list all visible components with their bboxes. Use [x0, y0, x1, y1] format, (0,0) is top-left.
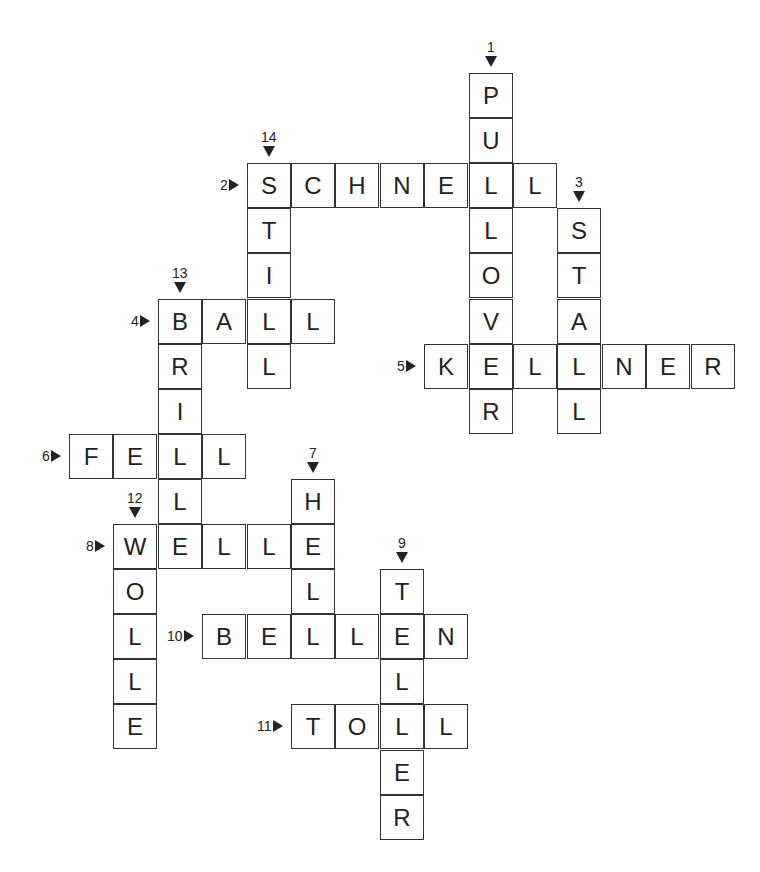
crossword-cell: E: [646, 344, 690, 389]
arrow-right-icon: [95, 540, 105, 552]
arrow-right-icon: [140, 315, 150, 327]
arrow-down-icon: [174, 282, 186, 293]
crossword-cell: L: [291, 569, 335, 614]
crossword-cell: L: [513, 163, 557, 208]
crossword-cell: E: [424, 163, 468, 208]
crossword-cell: N: [602, 344, 646, 389]
crossword-cell: V: [469, 299, 513, 344]
crossword-cell: R: [158, 344, 202, 389]
crossword-cell: C: [291, 163, 335, 208]
clue-number: 10: [167, 629, 183, 643]
arrow-down-icon: [129, 507, 141, 518]
crossword-cell: L: [380, 659, 424, 704]
clue-number: 14: [261, 130, 277, 144]
crossword-cell: R: [691, 344, 735, 389]
clue-number: 6: [42, 449, 50, 463]
crossword-cell: H: [335, 163, 379, 208]
crossword-cell: R: [469, 389, 513, 434]
crossword-cell: L: [247, 524, 291, 569]
crossword-cell: T: [380, 569, 424, 614]
crossword-cell: L: [113, 614, 157, 659]
crossword-cell: O: [469, 253, 513, 298]
clue-number: 12: [127, 491, 143, 505]
crossword-cell: B: [158, 299, 202, 344]
crossword-cell: L: [158, 434, 202, 479]
crossword-cell: L: [291, 614, 335, 659]
crossword-cell: L: [380, 704, 424, 749]
arrow-down-icon: [573, 191, 585, 202]
crossword-cell: E: [291, 524, 335, 569]
crossword-cell: H: [291, 479, 335, 524]
crossword-cell: K: [424, 344, 468, 389]
crossword-cell: U: [469, 118, 513, 163]
clue-marker-12: 12: [127, 491, 143, 518]
arrow-right-icon: [406, 360, 416, 372]
clue-number: 11: [257, 719, 272, 733]
clue-number: 1: [487, 40, 495, 54]
clue-marker-4: 4: [131, 314, 150, 328]
crossword-cell: F: [69, 434, 113, 479]
crossword-cell: L: [247, 299, 291, 344]
crossword-cell: L: [202, 524, 246, 569]
crossword-cell: L: [113, 659, 157, 704]
crossword-cell: S: [247, 163, 291, 208]
clue-marker-9: 9: [396, 536, 408, 563]
clue-number: 7: [309, 446, 317, 460]
clue-marker-5: 5: [397, 359, 416, 373]
crossword-cell: L: [557, 344, 601, 389]
clue-marker-14: 14: [261, 130, 277, 157]
crossword-cell: L: [424, 704, 468, 749]
crossword-cell: I: [158, 389, 202, 434]
clue-marker-11: 11: [257, 719, 283, 733]
crossword-cell: E: [158, 524, 202, 569]
arrow-down-icon: [396, 552, 408, 563]
crossword-cell: R: [380, 795, 424, 840]
clue-number: 2: [220, 178, 228, 192]
crossword-cell: L: [247, 344, 291, 389]
clue-marker-10: 10: [167, 629, 194, 643]
crossword-cell: L: [291, 299, 335, 344]
clue-marker-6: 6: [42, 449, 61, 463]
arrow-right-icon: [184, 630, 194, 642]
crossword-cell: T: [247, 208, 291, 253]
arrow-down-icon: [485, 56, 497, 67]
clue-number: 9: [398, 536, 406, 550]
crossword-cell: P: [469, 73, 513, 118]
crossword-cell: E: [380, 750, 424, 795]
crossword-cell: W: [113, 524, 157, 569]
crossword-cell: T: [291, 704, 335, 749]
arrow-right-icon: [229, 179, 239, 191]
crossword-cell: B: [202, 614, 246, 659]
crossword-cell: L: [557, 389, 601, 434]
crossword-cell: N: [424, 614, 468, 659]
crossword-cell: E: [380, 614, 424, 659]
crossword-cell: S: [557, 208, 601, 253]
clue-marker-7: 7: [307, 446, 319, 473]
crossword-cell: A: [557, 299, 601, 344]
crossword-cell: L: [158, 479, 202, 524]
crossword-cell: L: [469, 208, 513, 253]
arrow-right-icon: [51, 450, 61, 462]
clue-number: 4: [131, 314, 139, 328]
clue-marker-2: 2: [220, 178, 239, 192]
crossword-cell: L: [202, 434, 246, 479]
arrow-down-icon: [307, 462, 319, 473]
crossword-cell: E: [247, 614, 291, 659]
clue-marker-3: 3: [573, 175, 585, 202]
crossword-cell: O: [335, 704, 379, 749]
arrow-right-icon: [273, 720, 283, 732]
clue-marker-1: 1: [485, 40, 497, 67]
crossword-cell: T: [557, 253, 601, 298]
clue-marker-8: 8: [86, 539, 105, 553]
crossword-cell: N: [380, 163, 424, 208]
crossword-cell: I: [247, 253, 291, 298]
crossword-cell: E: [113, 434, 157, 479]
clue-number: 13: [172, 266, 188, 280]
crossword-puzzle: PULLOVER1SCHNEL2STALL3BALL4KLNER5FELL6HE…: [0, 0, 760, 872]
arrow-down-icon: [263, 146, 275, 157]
clue-number: 3: [575, 175, 583, 189]
crossword-cell: O: [113, 569, 157, 614]
crossword-cell: L: [335, 614, 379, 659]
clue-marker-13: 13: [172, 266, 188, 293]
clue-number: 8: [86, 539, 94, 553]
